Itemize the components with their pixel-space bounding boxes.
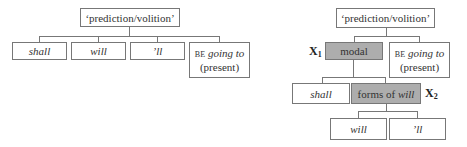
left-node-will: will bbox=[71, 42, 126, 60]
right-shall-label: shall bbox=[310, 88, 331, 100]
left-root-label: ‘prediction/volition’ bbox=[85, 12, 174, 24]
left-node-shall: shall bbox=[12, 42, 67, 60]
right-be-prefix: BE bbox=[395, 50, 406, 59]
left-present-label: (present) bbox=[200, 61, 239, 73]
right-present-label: (present) bbox=[400, 61, 439, 73]
modal-branch-bar bbox=[322, 77, 386, 78]
right-going-to-label: going to bbox=[408, 47, 444, 59]
left-branch-bar bbox=[39, 36, 219, 37]
left-root-node: ‘prediction/volition’ bbox=[80, 8, 180, 27]
modal-stem bbox=[353, 60, 354, 77]
forms-branch-ll bbox=[417, 111, 418, 118]
left-node-ll: ’ll bbox=[130, 42, 185, 60]
right-node-ll: ’ll bbox=[389, 118, 446, 140]
left-node-will-label: will bbox=[90, 45, 107, 57]
x1-marker: X1 bbox=[309, 44, 322, 59]
right-branch-bar bbox=[354, 36, 420, 37]
right-root-label: ‘prediction/volition’ bbox=[341, 12, 430, 24]
right-node-be-going-to: BE going to (present) bbox=[389, 42, 450, 78]
right-node-forms-of-will: forms of will bbox=[351, 83, 421, 104]
right-root-stem bbox=[386, 28, 387, 36]
right-node-modal: modal bbox=[325, 42, 383, 60]
right-node-will: will bbox=[330, 118, 387, 140]
right-node-shall: shall bbox=[292, 83, 350, 104]
left-node-ll-label: ’ll bbox=[153, 45, 163, 57]
left-node-shall-label: shall bbox=[29, 45, 50, 57]
right-will-label: will bbox=[350, 123, 367, 135]
left-root-stem bbox=[129, 27, 130, 36]
right-ll-label: ’ll bbox=[413, 123, 423, 135]
left-node-be-going-to: BE going to (present) bbox=[189, 42, 250, 78]
modal-label: modal bbox=[340, 45, 368, 57]
right-root-node: ‘prediction/volition’ bbox=[336, 8, 435, 28]
forms-branch-will bbox=[358, 111, 359, 118]
x2-marker: X2 bbox=[425, 86, 438, 101]
forms-stem bbox=[386, 104, 387, 111]
forms-of-will-label: forms of will bbox=[358, 88, 415, 100]
left-be-prefix: BE bbox=[195, 50, 206, 59]
left-going-to-label: going to bbox=[208, 47, 244, 59]
forms-branch-bar bbox=[358, 111, 418, 112]
